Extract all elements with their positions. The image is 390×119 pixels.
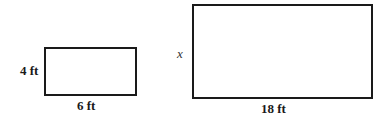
large-rectangle [192, 4, 373, 99]
small-rectangle [44, 47, 137, 96]
large-rectangle-width-label: 18 ft [261, 101, 286, 117]
small-rectangle-height-label: 4 ft [20, 63, 38, 79]
large-rectangle-height-label: x [177, 46, 183, 62]
small-rectangle-width-label: 6 ft [77, 98, 95, 114]
